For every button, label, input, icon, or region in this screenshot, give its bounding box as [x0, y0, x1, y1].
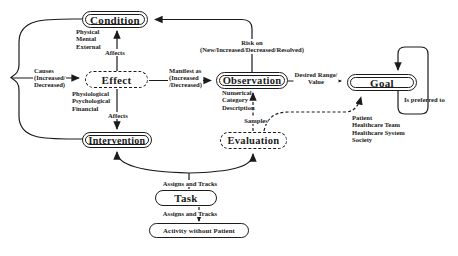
node-effect: Effect: [85, 71, 148, 88]
concept-diagram: Physical Mental External Physiological P…: [0, 0, 458, 256]
edge-label-manifest: Manifest as (Increased /Decreased): [168, 67, 203, 89]
goal-stakeholder: Patient: [352, 114, 405, 121]
edge-label-risk: Risk on (New/Increased/Decreased/Resolve…: [199, 39, 305, 54]
observation-aspect: Category: [222, 96, 255, 103]
node-task: Task: [155, 190, 217, 206]
effect-aspect: Financial: [72, 105, 110, 112]
goal-stakeholder: Healthcare System: [352, 129, 405, 136]
condition-aspects-list: Physical Mental External: [76, 28, 101, 50]
edge-label-causes: Causes (Increased/ Decreased): [33, 67, 66, 89]
node-observation-label: Observation: [223, 75, 282, 86]
node-task-label: Task: [174, 192, 197, 204]
node-condition-label: Condition: [90, 14, 140, 26]
condition-aspect: Mental: [76, 35, 101, 42]
node-intervention-label: Intervention: [89, 135, 146, 146]
node-activity-without-patient: Activity without Patient: [149, 223, 249, 238]
observation-aspects-list: Numerical Category Description: [222, 89, 255, 111]
edge-label-desired-range: Desired Range/ Value: [294, 71, 339, 86]
edge-label-affects-condition: Affects: [104, 49, 126, 56]
node-effect-label: Effect: [102, 74, 132, 86]
edge-label-affects-intervention: Affects: [107, 112, 129, 119]
edge-evaluation-goal-line: [264, 97, 361, 131]
node-observation: Observation: [216, 72, 288, 89]
edge-assigns-evaluation-line: [189, 154, 253, 173]
goal-stakeholders-list: Patient Healthcare Team Healthcare Syste…: [352, 114, 405, 144]
edge-label-is-preferred-to: Is preferred to: [404, 96, 445, 103]
node-condition: Condition: [82, 11, 148, 28]
goal-stakeholder: Healthcare Team: [352, 121, 405, 128]
observation-aspect: Description: [222, 104, 255, 111]
node-evaluation-label: Evaluation: [227, 135, 279, 146]
edge-label-assigns-tracks-lower: Assigns and Tracks: [162, 210, 218, 217]
node-evaluation: Evaluation: [220, 132, 287, 149]
node-activity-label: Activity without Patient: [163, 227, 235, 234]
condition-aspect: Physical: [76, 28, 101, 35]
node-intervention: Intervention: [82, 132, 152, 148]
node-goal: Goal: [347, 74, 417, 91]
effect-aspect: Psychological: [72, 97, 110, 104]
node-goal-label: Goal: [370, 77, 394, 89]
goal-stakeholder: Society: [352, 136, 405, 143]
edge-assigns-intervention-line: [117, 152, 189, 173]
effect-aspects-list: Physiological Psychological Financial: [72, 90, 110, 112]
edge-label-samples: Samples: [243, 117, 268, 124]
effect-aspect: Physiological: [72, 90, 110, 97]
condition-aspect: External: [76, 43, 101, 50]
observation-aspect: Numerical: [222, 89, 255, 96]
edge-label-assigns-tracks-upper: Assigns and Tracks: [162, 180, 218, 187]
